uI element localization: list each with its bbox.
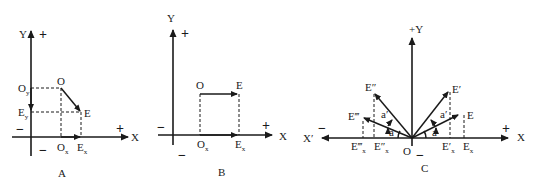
minus-y-sign: − [39,143,47,158]
y-axis-label: Y [167,12,175,24]
e-label: E [467,109,474,121]
e-triple-prime-x-label: E‴x [351,140,366,155]
x-axis-label: X [517,131,525,143]
plus-y-sign: + [181,26,189,41]
minus-x-sign: − [157,120,165,135]
x-axis-label: X [131,131,139,143]
caption-b: B [218,166,225,178]
plus-x-sign: + [116,121,124,136]
ox-label: Ox [57,141,69,156]
angle-a-label-left: a [389,126,394,138]
diagram-b: Y + X + − − O E Ox Ex B [157,12,287,178]
y-axis-label: +Y [409,23,423,35]
angle-a-arc-right [424,131,426,138]
minus-x-sign: − [318,121,326,136]
e-prime-label: E′ [452,83,461,95]
vector-oe [61,88,80,111]
oy-label: Oy [18,82,30,97]
y-axis-label: Y [19,28,27,40]
plus-x-sign: + [262,118,270,133]
point-e-label: E [236,79,243,91]
x-axis-label: X [279,130,287,142]
diagram-a: Y + X + − − O E Oy Ey Ox Ex A [12,27,139,179]
e-prime-x-label: E′x [442,140,455,155]
caption-c: C [421,162,428,174]
diagram-c: +Y X X′ + − − O E E′ E″ E‴ a a′ a a′ Ex … [303,23,525,174]
ey-label: Ey [18,106,29,121]
origin-label: O [403,145,411,157]
angle-a-prime-label-right: a′ [440,108,447,120]
ox-label: Ox [197,138,209,153]
x-neg-axis-label: X′ [303,132,313,144]
minus-x-sign: − [16,122,24,137]
point-o-label: O [196,79,204,91]
plus-x-sign: + [502,121,510,136]
angle-a-label-right: a [432,126,437,138]
minus-y-sign: − [178,148,186,163]
ex-label: Ex [235,138,246,153]
angle-a-prime-label-left: a′ [381,108,388,120]
ex-label: Ex [77,141,88,156]
e-double-prime-x-label: E″x [374,140,389,155]
polarization-diagrams: Y + X + − − O E Oy Ey Ox Ex A Y + X + − … [0,0,535,188]
point-o-label: O [57,75,65,87]
ex-label: Ex [463,140,474,155]
e-double-prime-label: E″ [365,81,376,93]
caption-a: A [58,167,66,179]
plus-y-sign: + [39,27,47,42]
minus-y-sign: − [416,148,424,163]
e-triple-prime-label: E‴ [348,110,360,122]
point-e-label: E [84,107,91,119]
